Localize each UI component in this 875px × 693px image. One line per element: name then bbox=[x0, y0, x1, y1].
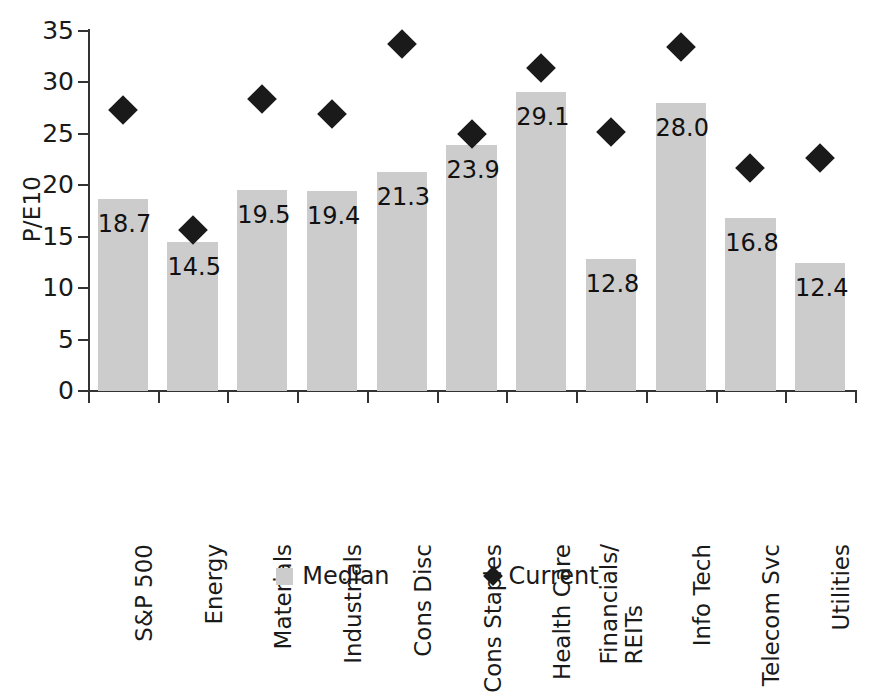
x-tick-mark-1 bbox=[158, 392, 160, 403]
x-tick-mark-2 bbox=[227, 392, 229, 403]
current-marker-8 bbox=[666, 33, 696, 63]
y-tick-label-0: 0 bbox=[22, 378, 74, 403]
current-marker-5 bbox=[457, 119, 487, 149]
legend-label-1: Current bbox=[509, 562, 599, 590]
chart-legend: MedianCurrent bbox=[0, 556, 875, 596]
current-marker-2 bbox=[247, 84, 277, 114]
y-tick-label-10: 10 bbox=[22, 275, 74, 300]
current-marker-10 bbox=[805, 143, 835, 173]
current-marker-6 bbox=[526, 53, 556, 83]
current-marker-4 bbox=[387, 30, 417, 60]
x-tick-mark-4 bbox=[367, 392, 369, 403]
y-tick-mark-30 bbox=[78, 81, 89, 83]
y-tick-label-15: 15 bbox=[22, 224, 74, 249]
y-tick-mark-35 bbox=[78, 30, 89, 32]
current-marker-3 bbox=[317, 99, 347, 129]
legend-item-median[interactable]: Median bbox=[276, 562, 389, 590]
y-tick-label-5: 5 bbox=[22, 327, 74, 352]
y-tick-mark-25 bbox=[78, 133, 89, 135]
y-tick-mark-20 bbox=[78, 184, 89, 186]
y-tick-mark-10 bbox=[78, 287, 89, 289]
x-tick-mark-8 bbox=[646, 392, 648, 403]
y-axis-tick-labels: 35302520151050 bbox=[8, 0, 74, 606]
x-tick-mark-6 bbox=[506, 392, 508, 403]
current-marker-9 bbox=[736, 153, 766, 183]
y-tick-label-35: 35 bbox=[22, 18, 74, 43]
legend-item-current[interactable]: Current bbox=[486, 562, 599, 590]
y-tick-label-30: 30 bbox=[22, 69, 74, 94]
y-tick-mark-15 bbox=[78, 236, 89, 238]
current-marker-7 bbox=[596, 117, 626, 147]
diamond-swatch-icon bbox=[483, 566, 503, 586]
current-marker-0 bbox=[108, 95, 138, 125]
x-axis-category-labels: S&P 500EnergyMaterialsIndustrialsCons Di… bbox=[88, 398, 855, 548]
current-marker-1 bbox=[178, 215, 208, 245]
x-tick-mark-0 bbox=[88, 392, 90, 403]
legend-label-0: Median bbox=[302, 562, 389, 590]
y-tick-label-20: 20 bbox=[22, 172, 74, 197]
marker-series-current bbox=[88, 31, 855, 391]
y-tick-mark-5 bbox=[78, 339, 89, 341]
x-tick-mark-3 bbox=[297, 392, 299, 403]
x-tick-mark-5 bbox=[437, 392, 439, 403]
x-tick-mark-11 bbox=[855, 392, 857, 403]
x-tick-mark-9 bbox=[716, 392, 718, 403]
x-tick-mark-7 bbox=[576, 392, 578, 403]
y-tick-label-25: 25 bbox=[22, 121, 74, 146]
square-swatch-icon bbox=[276, 568, 293, 585]
x-tick-mark-10 bbox=[785, 392, 787, 403]
